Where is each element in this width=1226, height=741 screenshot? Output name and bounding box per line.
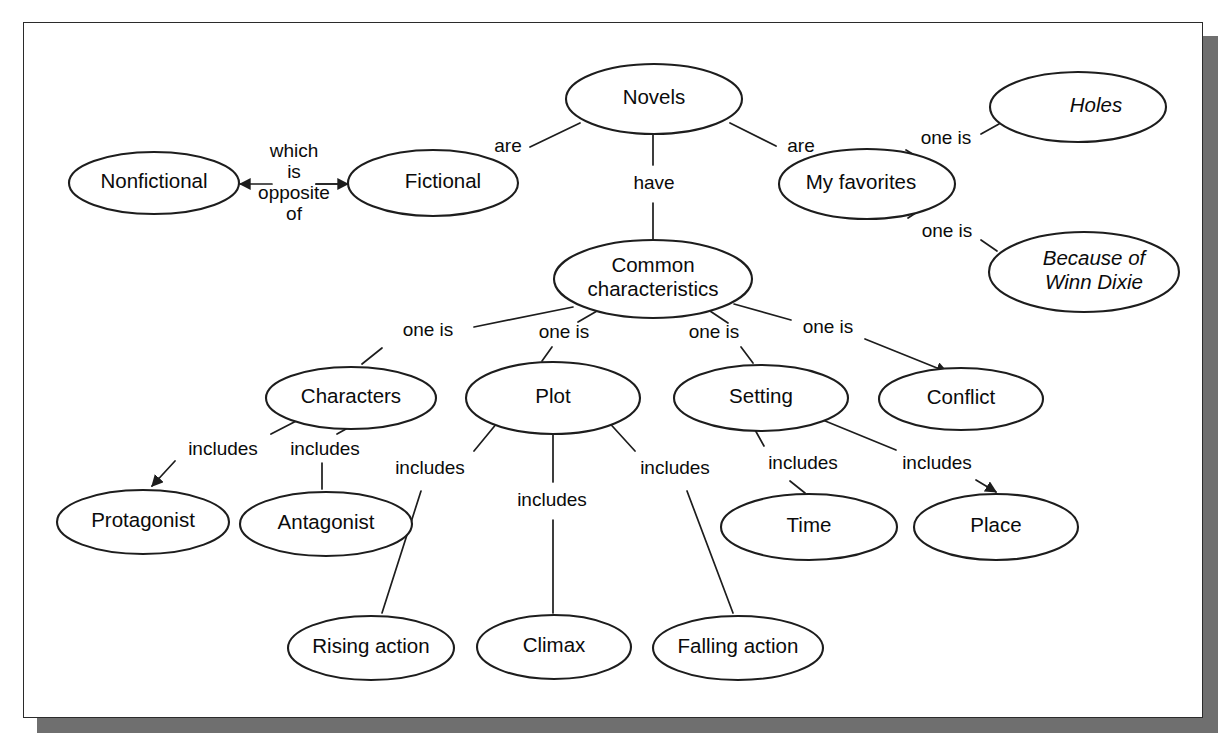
node-fallingaction[interactable]: Falling action [653, 616, 823, 680]
node-common[interactable]: Commoncharacteristics [554, 240, 752, 318]
edge-label: includes [188, 438, 258, 459]
node-label: Rising action [312, 634, 429, 657]
edge-label: one is [689, 321, 740, 342]
node-label: Nonfictional [100, 169, 207, 192]
node-label: Plot [535, 384, 571, 407]
edge-common-to-setting: one is [689, 311, 753, 363]
node-label: Novels [623, 85, 686, 108]
edge-characters-to-antagonist: includes [290, 429, 360, 489]
edge-label: one is [921, 127, 972, 148]
edge-common-to-conflict: one is [734, 304, 947, 372]
edge-label: includes [290, 438, 360, 459]
node-label: Falling action [678, 634, 799, 657]
concept-map-card: arearehavewhichisoppositeofone isone iso… [23, 22, 1203, 718]
edge-label: are [494, 135, 521, 156]
edge-setting-to-time: includes [754, 428, 838, 493]
edge-label: includes [902, 452, 972, 473]
edge-label: one is [922, 220, 973, 241]
nodes-layer: NovelsFictionalNonfictionalMy favoritesH… [57, 64, 1179, 680]
node-label: Conflict [927, 385, 996, 408]
node-label: Time [787, 513, 832, 536]
edge-common-to-plot: one is [539, 311, 597, 361]
concept-map-diagram: arearehavewhichisoppositeofone isone iso… [24, 23, 1203, 718]
edge-line [604, 417, 733, 613]
node-label: Fictional [405, 169, 481, 192]
edge-label: one is [539, 321, 590, 342]
edge-label: are [787, 135, 814, 156]
edge-label: have [633, 172, 674, 193]
node-novels[interactable]: Novels [566, 64, 742, 134]
node-place[interactable]: Place [914, 494, 1078, 560]
node-myfavorites[interactable]: My favorites [779, 149, 955, 219]
edge-plot-to-climax: includes [517, 434, 587, 613]
node-setting[interactable]: Setting [674, 365, 848, 431]
screenshot-root: arearehavewhichisoppositeofone isone iso… [0, 0, 1226, 741]
node-label: Setting [729, 384, 793, 407]
node-winndixie[interactable]: Because ofWinn Dixie [989, 232, 1179, 312]
node-plot[interactable]: Plot [466, 362, 640, 434]
node-antagonist[interactable]: Antagonist [240, 492, 412, 556]
node-label: Holes [1070, 93, 1122, 116]
node-fictional[interactable]: Fictional [348, 150, 518, 216]
edge-label: one is [403, 319, 454, 340]
edge-characters-to-protagonist: includes [152, 417, 304, 486]
edge-nonfictional-to-fictional: whichisoppositeof [240, 140, 348, 224]
node-label: Antagonist [278, 510, 375, 533]
node-nonfictional[interactable]: Nonfictional [69, 152, 239, 214]
node-climax[interactable]: Climax [477, 615, 631, 679]
edge-label: includes [517, 489, 587, 510]
node-characters[interactable]: Characters [266, 367, 436, 429]
edge-line [734, 304, 947, 372]
edge-plot-to-fallingaction: includes [604, 417, 733, 613]
node-label: Climax [523, 633, 586, 656]
edge-novels-to-common: have [633, 135, 674, 241]
edge-label: includes [768, 452, 838, 473]
node-holes[interactable]: Holes [990, 72, 1166, 142]
node-label: My favorites [806, 170, 917, 193]
node-label: Characters [301, 384, 401, 407]
edge-label: includes [395, 457, 465, 478]
node-conflict[interactable]: Conflict [879, 368, 1043, 430]
node-label: Protagonist [91, 508, 195, 531]
edge-label: one is [803, 316, 854, 337]
edge-label: whichisoppositeof [258, 140, 330, 224]
node-label: Place [970, 513, 1021, 536]
node-label: Because ofWinn Dixie [1043, 246, 1148, 293]
node-risingaction[interactable]: Rising action [288, 616, 454, 680]
edge-myfavorites-to-winndixie: one is [908, 207, 997, 251]
node-protagonist[interactable]: Protagonist [57, 490, 229, 554]
edge-label: includes [640, 457, 710, 478]
node-time[interactable]: Time [721, 494, 897, 560]
